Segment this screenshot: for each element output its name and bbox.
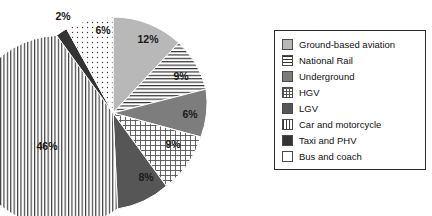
slice-label-taxi-and-phv: 2% [55,10,71,22]
legend-swatch-icon-car-and-motorcycle [282,119,293,130]
legend-label-national-rail: National Rail [299,55,353,66]
legend-swatch-icon-taxi-and-phv [282,135,293,146]
legend-item-national-rail[interactable]: National Rail [282,52,421,68]
legend-item-taxi-and-phv[interactable]: Taxi and PHV [282,132,421,148]
legend-item-bus-and-coach[interactable]: Bus and coach [282,148,421,164]
slice-label-hgv: 9% [165,138,181,150]
legend-item-lgv[interactable]: LGV [282,100,421,116]
legend-label-hgv: HGV [299,87,320,98]
slice-label-bus-and-coach: 6% [95,24,111,36]
legend-item-ground-based-aviation[interactable]: Ground-based aviation [282,36,421,52]
legend-label-underground: Underground [299,71,354,82]
legend-swatch-icon-national-rail [282,55,293,66]
legend-swatch-icon-bus-and-coach [282,151,293,162]
legend-label-taxi-and-phv: Taxi and PHV [299,135,357,146]
slice-label-lgv: 8% [138,171,154,183]
slice-label-car-and-motorcycle: 46% [36,140,58,152]
chart-legend: Ground-based aviation National Rail Unde… [274,30,426,170]
legend-item-hgv[interactable]: HGV [282,84,421,100]
legend-label-bus-and-coach: Bus and coach [299,151,362,162]
slice-label-underground: 6% [182,108,198,120]
slice-label-national-rail: 9% [173,70,189,82]
legend-swatch-icon-underground [282,71,293,82]
pie-chart-plot-area: 12% 9% 6% 9% 8% 46% 2% 6% [0,0,264,216]
slice-label-ground-based-aviation: 12% [137,33,159,45]
legend-item-car-and-motorcycle[interactable]: Car and motorcycle [282,116,421,132]
pie-slices [0,17,207,216]
legend-label-car-and-motorcycle: Car and motorcycle [299,119,381,130]
legend-swatch-icon-lgv [282,103,293,114]
legend-swatch-icon-ground-based-aviation [282,39,293,50]
legend-label-lgv: LGV [299,103,318,114]
pie-chart-figure: 12% 9% 6% 9% 8% 46% 2% 6% Ground-based a… [0,0,432,216]
legend-swatch-icon-hgv [282,87,293,98]
legend-item-underground[interactable]: Underground [282,68,421,84]
pie-chart-svg: 12% 9% 6% 9% 8% 46% 2% 6% [0,0,264,216]
legend-label-ground-based-aviation: Ground-based aviation [299,39,395,50]
